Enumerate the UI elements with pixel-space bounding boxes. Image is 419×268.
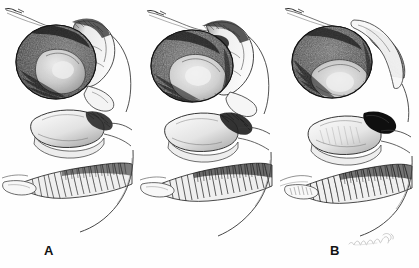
panel-a-illustration [0, 0, 139, 240]
upper-right-contour [402, 84, 409, 122]
ovoid-body [308, 112, 411, 166]
panel-b-illustration [140, 0, 279, 240]
panel-c-illustration [280, 0, 419, 240]
hatched-band [280, 159, 414, 206]
panel-a: A [0, 0, 139, 268]
ovoid-body [165, 113, 270, 162]
hatched-band [140, 157, 274, 204]
panel-c: C [280, 0, 419, 268]
hatched-band [2, 159, 134, 199]
rounded-stippled-mass [292, 25, 372, 104]
ovoid-body [31, 110, 132, 158]
panel-label-a: A [44, 244, 53, 257]
figure-root: A [0, 0, 419, 268]
rounded-stippled-mass [16, 24, 96, 100]
panel-b: B [140, 0, 279, 268]
